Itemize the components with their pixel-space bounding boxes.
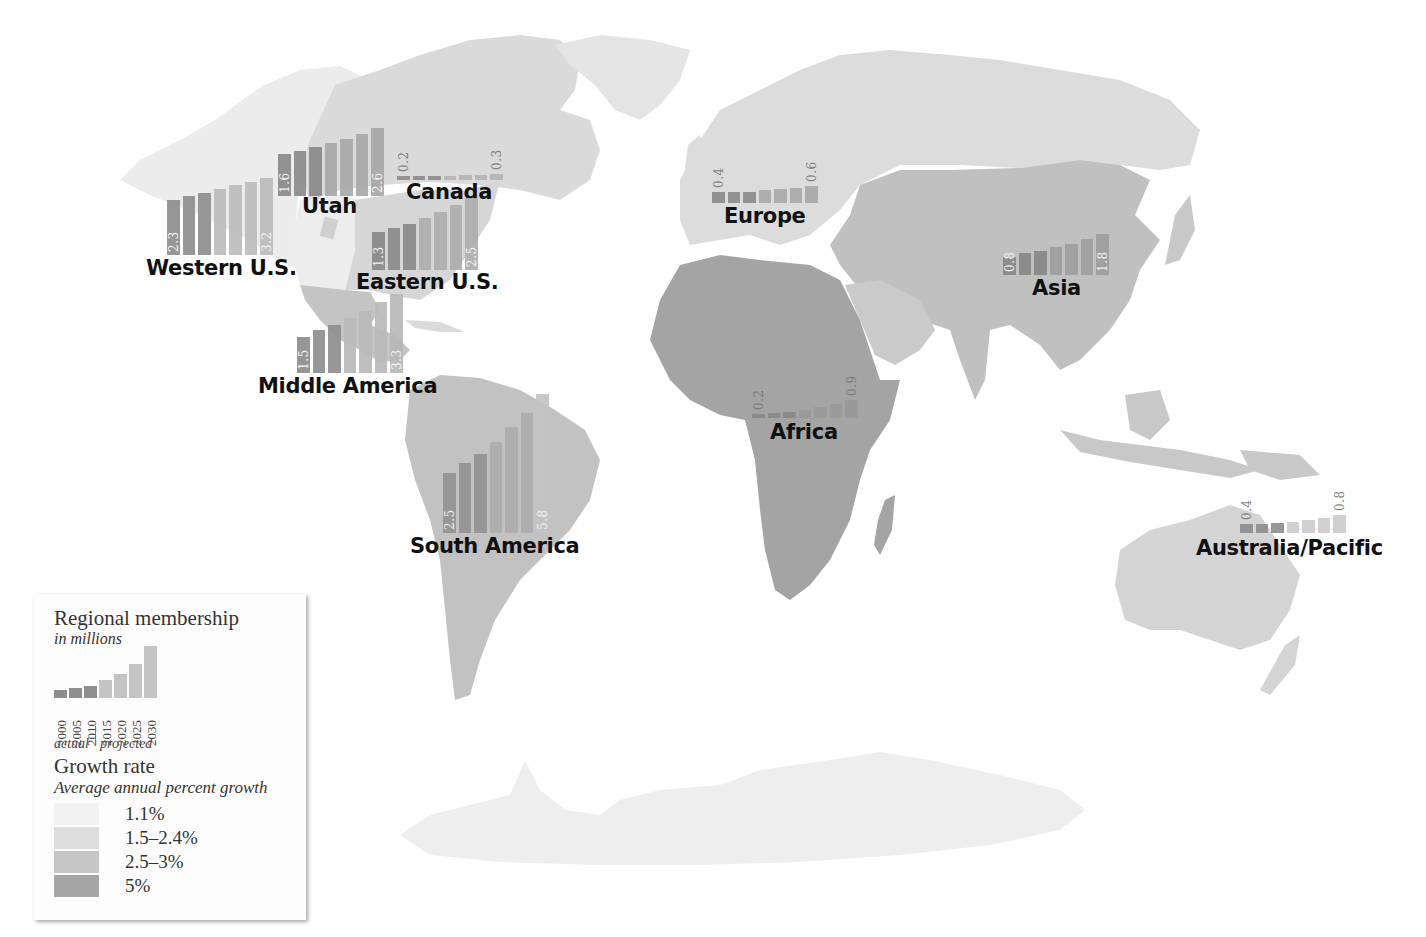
bar — [403, 224, 416, 270]
legend-actual-label: actual — [54, 736, 89, 752]
bar — [356, 134, 369, 196]
bar — [1050, 247, 1063, 275]
bar — [328, 325, 341, 373]
region-label: Europe — [724, 204, 806, 228]
bar — [790, 188, 803, 203]
bar: 1.3 — [372, 232, 385, 270]
bar — [1065, 244, 1078, 275]
bar — [459, 463, 472, 533]
growth-rate-swatch — [54, 875, 99, 897]
region-bars: 0.40.8 — [1240, 515, 1346, 533]
growth-rate-item: 2.5–3% — [54, 850, 198, 874]
bar — [214, 189, 227, 255]
bar — [229, 185, 242, 255]
bar — [245, 182, 258, 255]
region-label: Middle America — [258, 374, 437, 398]
growth-rate-label: 5% — [125, 875, 150, 897]
bar — [743, 192, 756, 203]
bar — [1034, 251, 1047, 275]
bar: 0.8 — [1333, 515, 1346, 533]
new-zealand — [1260, 635, 1300, 695]
growth-rate-label: 2.5–3% — [125, 851, 184, 873]
bar: 5.8 — [536, 394, 549, 533]
growth-rate-item: 5% — [54, 874, 198, 898]
growth-rate-item: 1.1% — [54, 802, 198, 826]
legend-sample-bars — [54, 646, 157, 698]
bar — [1019, 253, 1032, 275]
asia-region — [830, 160, 1160, 400]
region-label: Utah — [302, 194, 357, 218]
bar — [814, 407, 827, 418]
bar — [783, 412, 796, 418]
bar: 3.3 — [390, 294, 403, 373]
bar — [198, 193, 211, 255]
bar — [728, 192, 741, 203]
legend-sample-bar — [69, 688, 82, 698]
bar — [325, 143, 338, 196]
bar-value-label: 0.8 — [1333, 491, 1347, 512]
legend-panel: Regional membership in millions 20002005… — [34, 594, 306, 920]
bar-value-label: 0.9 — [845, 375, 859, 396]
bar — [1318, 518, 1331, 533]
legend-sample-bar — [114, 674, 127, 698]
legend-sample-bar — [99, 680, 112, 698]
region-bars: 0.20.9 — [752, 400, 858, 418]
bar: 0.4 — [1240, 524, 1253, 533]
bar — [450, 205, 463, 270]
region-label: Western U.S. — [146, 256, 297, 280]
bar — [799, 410, 812, 418]
legend-sample-bar — [144, 646, 157, 698]
region-bars: 1.53.3 — [297, 294, 403, 373]
bar: 0.9 — [845, 400, 858, 418]
bar — [1081, 239, 1094, 275]
region-bars: 0.40.6 — [712, 186, 818, 203]
bar: 1.6 — [278, 154, 291, 196]
bar — [434, 212, 447, 270]
growth-rate-item: 1.5–2.4% — [54, 826, 198, 850]
region-bars: 1.62.6 — [278, 128, 384, 196]
japan — [1165, 195, 1195, 265]
region-label: Africa — [770, 420, 838, 444]
region-bars: 0.81.8 — [1003, 234, 1109, 275]
bar — [830, 404, 843, 418]
bar — [313, 330, 326, 373]
legend-projected-label: projected — [100, 736, 152, 752]
region-bars: 2.55.8 — [443, 394, 549, 533]
growth-rate-subtitle: Average annual percent growth — [54, 778, 268, 798]
bar-value-label: 1.3 — [372, 246, 386, 267]
region-label: South America — [410, 534, 579, 558]
new-guinea — [1240, 450, 1320, 480]
bar — [768, 413, 781, 418]
legend-title: Regional membership — [54, 606, 239, 631]
legend-sample-bar — [54, 690, 67, 698]
bar: 0.6 — [805, 186, 818, 203]
growth-rate-swatch — [54, 851, 99, 873]
bar-value-label: 0.2 — [397, 151, 411, 172]
bar: 2.3 — [167, 200, 180, 255]
bar — [375, 302, 388, 373]
bar — [521, 413, 534, 533]
legend-sample-bar — [129, 664, 142, 698]
bar — [359, 311, 372, 373]
borneo — [1125, 390, 1170, 440]
bar: 1.8 — [1096, 234, 1109, 275]
region-label: Australia/Pacific — [1196, 536, 1383, 560]
bar — [490, 442, 503, 533]
bar: 3.2 — [260, 178, 273, 255]
bar — [309, 147, 322, 196]
growth-rate-label: 1.5–2.4% — [125, 827, 198, 849]
growth-rate-swatch — [54, 803, 99, 825]
bar: 2.5 — [465, 198, 478, 271]
region-bars: 1.32.5 — [372, 198, 478, 271]
bar-value-label: 1.6 — [278, 172, 292, 193]
bar-value-label: 0.4 — [712, 167, 726, 188]
bar — [344, 318, 357, 373]
bar-value-label: 2.5 — [465, 246, 479, 267]
bar: 2.6 — [371, 128, 384, 196]
growth-rate-label: 1.1% — [125, 803, 165, 825]
region-label: Asia — [1032, 276, 1081, 300]
bar — [294, 151, 307, 197]
bar-value-label: 1.8 — [1096, 251, 1110, 272]
growth-rate-swatches: 1.1%1.5–2.4%2.5–3%5% — [54, 802, 198, 898]
bar — [759, 190, 772, 203]
